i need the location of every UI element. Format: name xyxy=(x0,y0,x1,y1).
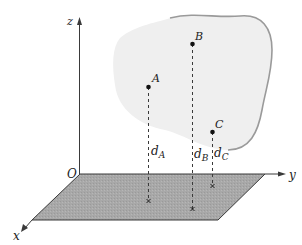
origin-label: O xyxy=(67,167,77,181)
y-axis-arrow-icon xyxy=(278,172,286,177)
point-b-label: B xyxy=(194,30,203,43)
distance-label-a: dA xyxy=(151,144,166,160)
point-a-label: A xyxy=(151,72,160,85)
coordinate-diagram: z y x O A B C dA dB dC xyxy=(0,0,302,245)
x-axis-label: x xyxy=(13,229,20,243)
distance-label-b: dB xyxy=(194,147,209,163)
point-a xyxy=(146,85,151,90)
y-axis-label: y xyxy=(288,168,296,182)
point-c-label: C xyxy=(215,118,224,131)
z-axis-arrow-icon xyxy=(77,17,82,25)
z-axis-label: z xyxy=(66,15,73,28)
